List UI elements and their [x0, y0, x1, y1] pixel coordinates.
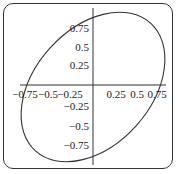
- x-tick-label: −0.75: [12, 88, 38, 100]
- y-tick-label: −0.25: [64, 100, 90, 112]
- y-tick-label: −0.75: [64, 139, 90, 151]
- y-tick-label: 0.25: [70, 59, 90, 71]
- ellipse-plot: 0.75 0.5 0.25 −0.25 −0.5 −0.75 −0.75 −0.…: [0, 0, 177, 174]
- x-tick-label: 0.25: [106, 88, 126, 100]
- x-tick-label: −0.25: [57, 88, 83, 100]
- x-tick-label: −0.5: [38, 88, 58, 100]
- y-tick-label: 0.75: [70, 22, 90, 34]
- y-tick-label: −0.5: [69, 120, 89, 132]
- x-tick-label: 0.5: [130, 88, 144, 100]
- x-tick-label: 0.75: [147, 88, 167, 100]
- y-tick-label: 0.5: [75, 41, 89, 53]
